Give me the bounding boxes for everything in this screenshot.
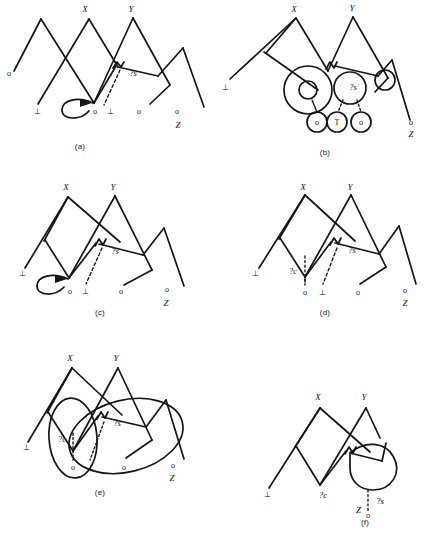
panel-e-leaf-o-3: o	[171, 461, 175, 470]
panel-b-var-s: ?s	[349, 82, 357, 92]
panel-a-graph: X Y o ⊥ o ⊥ o o Z ?s	[0, 0, 213, 140]
panel-e-var-c: ?c	[58, 434, 66, 444]
caption-e: (e)	[80, 488, 120, 497]
panel-b-peak-y: Y	[349, 3, 355, 13]
panel-f-var-s: ?s	[376, 496, 384, 506]
panel-e-leaf-o-2: o	[122, 463, 126, 472]
panel-d-leaf-o-2: o	[356, 288, 360, 297]
panel-f-graph: X Y ⊥ ?c ?s o	[213, 368, 427, 518]
panel-e-corner-z: Z	[169, 473, 175, 483]
panel-a-peak-x: X	[81, 4, 88, 14]
caption-b: (b)	[305, 148, 345, 157]
panel-c-leaf-o-1: o	[68, 287, 72, 296]
panel-d-corner-z: Z	[402, 298, 408, 308]
panel-c-graph: X Y ⊥ o ⊥ o o Z ?s	[0, 178, 213, 308]
panel-d-peak-y: Y	[347, 182, 353, 192]
panel-b: X Y ⊥ o T o o Z ?s	[213, 0, 427, 140]
panel-a-peak-y: Y	[128, 4, 134, 14]
panel-c-var-s: ?s	[111, 246, 119, 256]
panel-d-var-s: ?s	[348, 245, 356, 255]
panel-b-leaf-t: T	[335, 118, 340, 127]
caption-d: (d)	[305, 308, 345, 317]
panel-e-var-s: ?s	[113, 418, 121, 428]
panel-e-graph: X Y ⊥ ?c o ⊥ o o Z ?s	[0, 348, 213, 488]
panel-c-left-bottom: ⊥	[19, 269, 26, 278]
panel-a-leaf-o-4: o	[175, 107, 179, 116]
panel-f-corner-z: Z	[356, 505, 361, 515]
panel-b-leaf-o-2: o	[359, 118, 363, 127]
panel-a-leaf-o-3: o	[137, 107, 141, 116]
panel-f-leaf-o: o	[366, 511, 370, 518]
panel-b-leaf-o-1: o	[315, 118, 319, 127]
panel-b-leaf-o-3: o	[409, 118, 413, 127]
panel-a-leaf-o-2: o	[93, 107, 97, 116]
panel-e-leaf-bottom: ⊥	[87, 463, 94, 472]
panel-c-peak-x: X	[62, 182, 69, 192]
panel-d-left-bottom: ⊥	[252, 269, 259, 278]
panel-f-peak-x: X	[314, 392, 321, 402]
panel-e-leaf-o-1: o	[71, 463, 75, 472]
panel-a-corner-z: Z	[175, 120, 181, 130]
panel-f-peak-y: Y	[361, 392, 367, 402]
panel-a: X Y o ⊥ o ⊥ o o Z ?s	[0, 0, 213, 140]
panel-e-peak-x: X	[66, 353, 73, 363]
panel-c-leaf-bottom: ⊥	[82, 287, 89, 296]
panel-b-peak-x: X	[290, 4, 297, 14]
panel-f-left-bottom: ⊥	[264, 490, 271, 499]
caption-f: (f)	[345, 518, 385, 527]
caption-c: (c)	[80, 308, 120, 317]
panel-e: X Y ⊥ ?c o ⊥ o o Z ?s	[0, 348, 213, 488]
panel-c-peak-y: Y	[110, 182, 116, 192]
panel-e-peak-y: Y	[113, 353, 119, 363]
panel-d-leaf-o-3: o	[403, 286, 407, 295]
panel-a-leaf-bottom-2: ⊥	[107, 107, 114, 116]
panel-f-var-c: ?c	[319, 490, 327, 500]
panel-d-leaf-bottom: ⊥	[319, 288, 326, 297]
panel-b-corner-z: Z	[408, 129, 414, 139]
figure-root: X Y o ⊥ o ⊥ o o Z ?s (a)	[0, 0, 427, 539]
panel-d-var-c: ?c	[289, 266, 297, 276]
panel-b-left-bottom: ⊥	[222, 83, 229, 92]
panel-b-graph: X Y ⊥ o T o o Z ?s	[213, 0, 427, 140]
panel-d-peak-x: X	[299, 182, 306, 192]
panel-d-leaf-o-1: o	[303, 288, 307, 297]
panel-c: X Y ⊥ o ⊥ o o Z ?s	[0, 178, 213, 308]
panel-a-var-s: ?s	[129, 68, 137, 78]
caption-a: (a)	[60, 142, 100, 151]
panel-c-leaf-o-3: o	[165, 285, 169, 294]
panel-c-corner-z: Z	[163, 298, 169, 308]
panel-d: X Y ⊥ ?c o ⊥ o o Z ?s	[213, 178, 427, 308]
panel-c-leaf-o-2: o	[119, 287, 123, 296]
panel-a-leaf-bottom-1: ⊥	[34, 107, 41, 116]
panel-a-leaf-o-1: o	[7, 69, 11, 78]
panel-f: X Y ⊥ ?c ?s o	[213, 368, 427, 518]
panel-d-graph: X Y ⊥ ?c o ⊥ o o Z ?s	[213, 178, 427, 308]
panel-e-left-bottom: ⊥	[23, 443, 30, 452]
